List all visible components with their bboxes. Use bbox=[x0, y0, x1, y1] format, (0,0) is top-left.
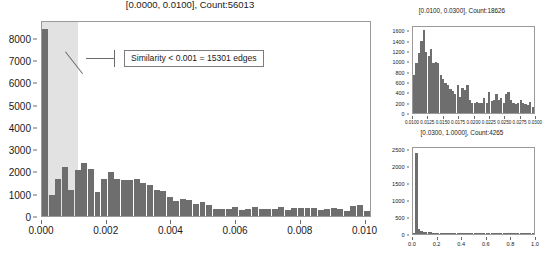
x-tick-label: 0.010 bbox=[352, 225, 377, 236]
y-tick-label: 7000 bbox=[9, 56, 31, 67]
x-tick-mark bbox=[412, 116, 413, 119]
y-tick-mark bbox=[33, 150, 37, 151]
histogram-bar bbox=[167, 197, 173, 216]
y-tick-label: 2000 bbox=[392, 164, 404, 170]
y-tick-mark bbox=[407, 72, 410, 73]
top-right-plot-area[interactable] bbox=[412, 26, 535, 114]
histogram-bar bbox=[324, 209, 330, 216]
y-tick-label: 800 bbox=[396, 70, 405, 76]
x-tick-label: 0.0150 bbox=[436, 120, 450, 125]
histogram-bar bbox=[206, 205, 212, 216]
y-tick-mark bbox=[33, 105, 37, 106]
top-right-y-axis: 02004006008001000120014001600 bbox=[380, 26, 409, 114]
y-tick-label: 200 bbox=[396, 101, 405, 107]
y-tick-label: 5000 bbox=[9, 100, 31, 111]
y-tick-mark bbox=[33, 172, 37, 173]
annotation-leader-horizontal bbox=[86, 58, 114, 59]
histogram-bar bbox=[140, 183, 146, 216]
y-tick-mark bbox=[407, 114, 410, 115]
y-tick-mark bbox=[407, 103, 410, 104]
y-tick-label: 4000 bbox=[9, 122, 31, 133]
top-right-bar-series bbox=[413, 27, 534, 113]
x-tick-label: 0.000 bbox=[28, 225, 53, 236]
main-x-axis: 0.0000.0020.0040.0060.0080.010 bbox=[41, 220, 371, 236]
x-tick-label: 0.006 bbox=[223, 225, 248, 236]
x-tick-label: 0.0275 bbox=[513, 120, 527, 125]
histogram-bar bbox=[160, 191, 166, 216]
x-tick-mark bbox=[504, 116, 505, 119]
x-tick-mark bbox=[106, 220, 107, 224]
bottom-right-plot-area[interactable] bbox=[412, 147, 535, 235]
histogram-bar bbox=[75, 170, 81, 216]
x-tick-mark bbox=[458, 116, 459, 119]
x-tick-label: 0.0175 bbox=[451, 120, 465, 125]
histogram-bar bbox=[265, 209, 271, 216]
histogram-bar bbox=[278, 207, 284, 216]
histogram-bar bbox=[285, 210, 291, 216]
annotation-leader-cap bbox=[114, 50, 115, 67]
x-tick-label: 0.008 bbox=[287, 225, 312, 236]
y-tick-mark bbox=[407, 201, 410, 202]
x-tick-mark bbox=[486, 237, 487, 240]
y-tick-mark bbox=[407, 218, 410, 219]
bottom-right-histogram-panel: [0.0300, 1.0000], Count:4265 05001000150… bbox=[380, 130, 544, 260]
y-tick-mark bbox=[33, 217, 37, 218]
x-tick-mark bbox=[443, 116, 444, 119]
histogram-bar bbox=[121, 180, 127, 216]
y-tick-mark bbox=[407, 93, 410, 94]
x-tick-label: 0.8 bbox=[507, 241, 515, 247]
y-tick-label: 0 bbox=[401, 232, 404, 238]
histogram-bar bbox=[331, 208, 337, 216]
y-tick-mark bbox=[33, 83, 37, 84]
histogram-bar bbox=[42, 29, 48, 216]
y-tick-label: 600 bbox=[396, 80, 405, 86]
histogram-bar bbox=[134, 179, 140, 216]
y-tick-label: 1000 bbox=[9, 189, 31, 200]
y-tick-label: 0 bbox=[402, 111, 405, 117]
y-tick-label: 1500 bbox=[392, 181, 404, 187]
y-tick-mark bbox=[407, 51, 410, 52]
y-tick-mark bbox=[407, 41, 410, 42]
histogram-bar bbox=[200, 202, 206, 216]
histogram-bar bbox=[68, 190, 74, 216]
bottom-right-chart-title: [0.0300, 1.0000], Count:4265 bbox=[380, 130, 544, 136]
main-histogram-panel: [0.0000, 0.0100], Count:56013 0100020003… bbox=[0, 0, 380, 260]
histogram-bar bbox=[226, 209, 232, 216]
x-tick-label: 0.0225 bbox=[482, 120, 496, 125]
histogram-bar bbox=[305, 208, 311, 216]
y-tick-label: 6000 bbox=[9, 78, 31, 89]
y-tick-mark bbox=[407, 82, 410, 83]
histogram-bar bbox=[318, 210, 324, 216]
x-tick-mark bbox=[535, 116, 536, 119]
y-tick-mark bbox=[407, 31, 410, 32]
x-tick-label: 0.0 bbox=[408, 241, 416, 247]
main-y-axis: 010002000300040005000600070008000 bbox=[0, 21, 37, 217]
histogram-bar bbox=[357, 205, 363, 216]
histogram-bar bbox=[532, 107, 534, 113]
bottom-right-y-axis: 05001000150020002500 bbox=[380, 147, 409, 235]
x-tick-mark bbox=[535, 237, 536, 240]
histogram-bar bbox=[532, 233, 534, 234]
x-tick-label: 0.0250 bbox=[497, 120, 511, 125]
histogram-bar bbox=[219, 209, 225, 216]
x-tick-label: 0.2 bbox=[433, 241, 441, 247]
x-tick-mark bbox=[489, 116, 490, 119]
x-tick-label: 0.0125 bbox=[420, 120, 434, 125]
y-tick-mark bbox=[33, 127, 37, 128]
y-tick-mark bbox=[407, 184, 410, 185]
y-tick-label: 500 bbox=[395, 215, 404, 221]
histogram-bar bbox=[259, 209, 265, 216]
histogram-bar bbox=[180, 199, 186, 216]
x-tick-label: 0.0100 bbox=[405, 120, 419, 125]
x-tick-mark bbox=[412, 237, 413, 240]
histogram-bar bbox=[239, 210, 245, 216]
histogram-bar bbox=[350, 206, 356, 216]
histogram-bar bbox=[154, 190, 160, 216]
x-tick-mark bbox=[510, 237, 511, 240]
top-right-x-axis: 0.01000.01250.01500.01750.02000.02250.02… bbox=[412, 116, 535, 126]
y-tick-mark bbox=[33, 38, 37, 39]
histogram-bar bbox=[337, 209, 343, 216]
histogram-bar bbox=[49, 195, 55, 216]
histogram-bar bbox=[95, 192, 101, 216]
histogram-bar bbox=[415, 153, 417, 234]
